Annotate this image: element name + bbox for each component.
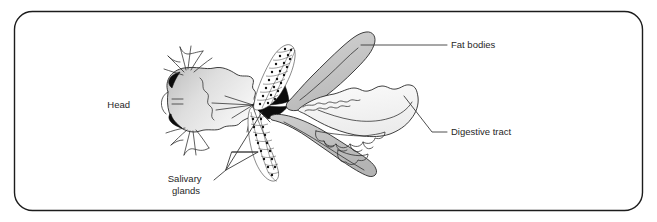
anatomy-diagram-canvas: Head Fat bodies Digestive tract Salivary… xyxy=(0,0,657,222)
label-head: Head xyxy=(107,99,130,110)
label-salivary-line-2: glands xyxy=(172,185,200,196)
label-fat-bodies: Fat bodies xyxy=(451,39,496,50)
label-digestive-tract: Digestive tract xyxy=(451,126,512,137)
label-salivary-line-1: Salivary xyxy=(168,173,202,184)
label-salivary-glands: Salivary glands xyxy=(168,173,204,196)
anatomy-figure: Head Fat bodies Digestive tract Salivary… xyxy=(0,0,657,222)
